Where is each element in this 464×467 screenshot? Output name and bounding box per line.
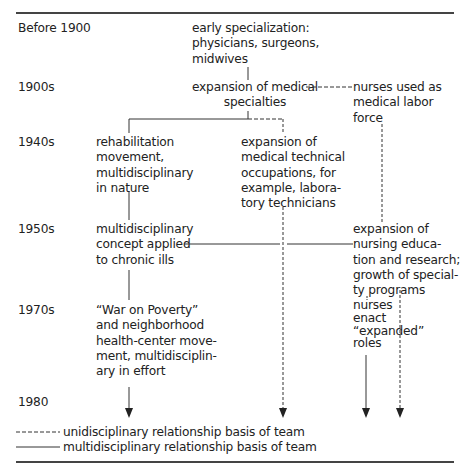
connector-lines xyxy=(0,0,464,467)
legend-dashed-label: unidisciplinary relationship basis of te… xyxy=(63,425,305,440)
bottom-rule xyxy=(16,461,454,463)
legend-solid-label: multidisciplinary relationship basis of … xyxy=(63,440,317,455)
